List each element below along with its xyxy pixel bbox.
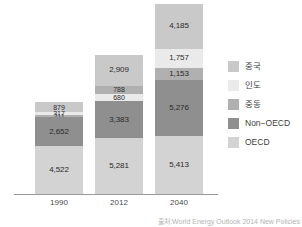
legend-swatch-icon [228, 61, 239, 72]
bar-segment-china-2040: 4,185 [155, 4, 203, 49]
legend-swatch-icon [228, 99, 239, 110]
bar-segment-china-2012: 2,909 [95, 55, 143, 86]
stacked-bar-chart: 879 317 211 2,652 4,522 2,909 [0, 0, 302, 227]
bar-segment-non-oecd-2040: 5,276 [155, 80, 203, 136]
plot-area: 879 317 211 2,652 4,522 2,909 [18, 4, 210, 194]
bar-segment-non-oecd-2012: 3,383 [95, 101, 143, 137]
bar-segment-oecd-2012: 5,281 [95, 138, 143, 194]
bar-segment-india-2012: 788 [95, 86, 143, 94]
legend-swatch-icon [228, 137, 239, 148]
segment-value-label: 3,383 [109, 116, 129, 124]
x-axis-line [14, 194, 218, 195]
x-axis-tick-2012: 2012 [95, 198, 143, 207]
chart-legend: 중국 인도 중동 Non−OECD OECD [228, 57, 300, 152]
legend-item-india: 인도 [228, 76, 300, 95]
segment-value-label: 5,281 [109, 162, 129, 170]
segment-value-label: 4,185 [169, 22, 189, 30]
segment-value-label: 2,909 [109, 66, 129, 74]
segment-value-label: 788 [113, 86, 124, 93]
bar-segment-non-oecd-1990: 2,652 [35, 117, 83, 145]
legend-item-non-oecd: Non−OECD [228, 114, 300, 133]
legend-item-label: 인도 [245, 81, 261, 90]
bar-segment-oecd-1990: 4,522 [35, 146, 83, 194]
legend-item-label: OECD [245, 138, 270, 147]
segment-value-label: 5,276 [169, 104, 189, 112]
x-axis-tick-2040: 2040 [155, 198, 203, 207]
bar-stack: 4,185 1,757 1,153 5,276 5,413 [155, 4, 203, 194]
bar-stack: 2,909 788 680 3,383 5,281 [95, 55, 143, 194]
legend-item-oecd: OECD [228, 133, 300, 152]
bar-segment-middle-east-2012: 680 [95, 94, 143, 101]
x-axis-labels: 1990 2012 2040 [18, 198, 210, 212]
bar-segment-india-2040: 1,757 [155, 49, 203, 68]
segment-value-label: 4,522 [49, 166, 69, 174]
bar-group-2040: 4,185 1,757 1,153 5,276 5,413 [155, 4, 203, 194]
x-axis-tick-1990: 1990 [35, 198, 83, 207]
segment-value-label: 5,413 [169, 161, 189, 169]
bar-segment-oecd-2040: 5,413 [155, 136, 203, 194]
bar-group-1990: 879 317 211 2,652 4,522 [35, 102, 83, 194]
segment-value-label: 2,652 [49, 128, 69, 136]
legend-item-china: 중국 [228, 57, 300, 76]
legend-item-label: 중국 [245, 62, 261, 71]
bar-stack: 879 317 211 2,652 4,522 [35, 102, 83, 194]
bar-group-2012: 2,909 788 680 3,383 5,281 [95, 55, 143, 194]
legend-item-label: 중동 [245, 100, 261, 109]
segment-value-label: 680 [113, 94, 124, 101]
segment-value-label: 1,757 [169, 54, 189, 62]
legend-item-middle-east: 중동 [228, 95, 300, 114]
legend-swatch-icon [228, 118, 239, 129]
chart-footnote: 출처:World Energy Outlook 2014 New Policie… [0, 216, 302, 226]
legend-swatch-icon [228, 80, 239, 91]
bar-segment-middle-east-2040: 1,153 [155, 68, 203, 80]
segment-value-label: 1,153 [169, 70, 189, 78]
legend-item-label: Non−OECD [245, 119, 290, 128]
